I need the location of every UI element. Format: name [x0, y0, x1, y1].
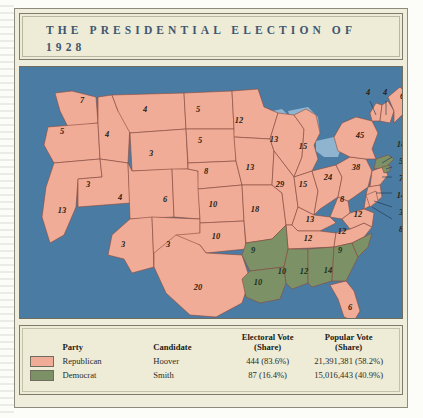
- legend-candidate-name: Hoover: [153, 355, 232, 369]
- state-vote-label-ma: 18: [397, 140, 402, 149]
- state-vote-label-ny: 45: [355, 131, 364, 140]
- table-row: Democrat Smith 87 (16.4%) 15,016,443 (40…: [30, 369, 394, 383]
- state-vote-label-ia: 13: [246, 163, 254, 172]
- page-title: THE PRESIDENTIAL ELECTION OF 1928: [46, 22, 386, 56]
- state-vote-label-nv: 3: [85, 180, 90, 189]
- state-vote-label-md: 8: [399, 225, 402, 234]
- state-vote-label-az: 3: [120, 240, 125, 249]
- state-vote-label-ok: 10: [212, 232, 221, 241]
- state-vote-label-ri: 5: [399, 157, 402, 166]
- title-panel: THE PRESIDENTIAL ELECTION OF 1928: [19, 13, 403, 60]
- state-vote-label-sd: 5: [198, 136, 202, 145]
- state-vote-label-nm: 3: [165, 240, 170, 249]
- legend-electoral-header-line2: (Share): [232, 342, 303, 352]
- legend-popular-header-line2: (Share): [303, 342, 394, 352]
- state-vote-label-wi: 13: [270, 135, 278, 144]
- state-vote-label-oh: 24: [323, 173, 332, 182]
- legend-candidate-name: Smith: [153, 369, 232, 383]
- state-vote-label-tx: 20: [193, 283, 203, 292]
- legend-popular-value: 15,016,443 (40.9%): [303, 369, 394, 383]
- state-vote-label-mo: 18: [251, 205, 260, 214]
- legend-table: Party Candidate Electoral Vote (Share) P…: [30, 332, 394, 382]
- state-vote-label-il: 29: [275, 180, 285, 189]
- state-vote-label-ky: 13: [306, 215, 314, 224]
- state-vote-label-or: 5: [60, 127, 64, 136]
- state-vote-label-wy: 3: [148, 149, 153, 158]
- legend-panel: Party Candidate Electoral Vote (Share) P…: [19, 325, 403, 395]
- state-vote-label-ks: 10: [209, 200, 218, 209]
- state-vote-label-tn: 12: [304, 234, 312, 243]
- state-vote-label-nd: 5: [196, 105, 200, 114]
- legend-party-name: Democrat: [62, 369, 153, 383]
- us-election-map: 7513434346335581010201213189101329101515…: [19, 66, 403, 319]
- state-vote-label-ct: 7: [399, 174, 402, 183]
- state-vote-label-va: 12: [354, 210, 362, 219]
- state-vote-label-mt: 4: [142, 105, 147, 114]
- state-vote-label-mi: 15: [299, 142, 307, 151]
- legend-electoral-header: Electoral Vote (Share): [232, 332, 303, 355]
- state-vote-label-mn: 12: [235, 116, 243, 125]
- legend-electoral-value: 87 (16.4%): [232, 369, 303, 383]
- state-vote-label-vt: 4: [365, 88, 370, 97]
- table-row: Republican Hoover 444 (83.6%) 21,391,381…: [30, 355, 394, 369]
- legend-party-header: Party: [62, 332, 153, 355]
- state-vote-label-nj: 14: [397, 191, 402, 200]
- legend-swatch-header: [30, 332, 62, 355]
- legend-party-name: Republican: [62, 355, 153, 369]
- legend-popular-header-line1: Popular Vote: [303, 332, 394, 342]
- state-vote-label-in: 15: [299, 180, 307, 189]
- legend-popular-value: 21,391,381 (58.2%): [303, 355, 394, 369]
- state-vote-label-nh: 4: [382, 88, 387, 97]
- legend-electoral-value: 444 (83.6%): [232, 355, 303, 369]
- state-vote-label-al: 12: [300, 267, 308, 276]
- state-vote-label-pa: 38: [351, 163, 361, 172]
- state-vote-label-ca: 13: [58, 206, 66, 215]
- democrat-swatch: [30, 370, 54, 381]
- state-vote-label-de: 3: [398, 208, 402, 217]
- legend-header-row: Party Candidate Electoral Vote (Share) P…: [30, 332, 394, 355]
- state-vote-label-me: 6: [400, 92, 402, 101]
- state-vote-label-id: 4: [104, 130, 109, 139]
- election-map-page: THE PRESIDENTIAL ELECTION OF 1928: [0, 0, 423, 418]
- state-vote-label-nc: 12: [338, 227, 346, 236]
- state-vote-label-ga: 14: [324, 266, 332, 275]
- state-vote-label-la: 10: [254, 278, 263, 287]
- republican-swatch: [30, 356, 54, 367]
- legend-candidate-header: Candidate: [153, 332, 232, 355]
- legend-popular-header: Popular Vote (Share): [303, 332, 394, 355]
- state-vote-label-ut: 4: [117, 193, 122, 202]
- state-vote-label-ms: 10: [278, 267, 287, 276]
- page-edge-bleed: [0, 0, 14, 418]
- legend-electoral-header-line1: Electoral Vote: [232, 332, 303, 342]
